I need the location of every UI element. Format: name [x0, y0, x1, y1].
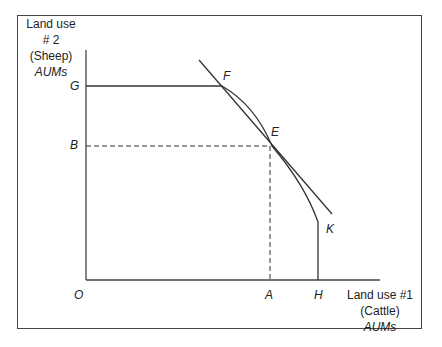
point-label-a: A — [265, 287, 273, 303]
point-label-e: E — [271, 124, 279, 140]
point-label-k: K — [326, 221, 334, 237]
y-axis-label-line1: Land use — [20, 16, 82, 32]
point-label-origin: O — [74, 287, 83, 303]
y-axis-label-line2: # 2 — [20, 32, 82, 48]
x-axis-label: Land use #1 (Cattle) AUMs — [338, 287, 422, 335]
x-axis-label-line1: Land use #1 — [338, 287, 422, 303]
point-label-h: H — [314, 287, 323, 303]
y-axis-label-line3: (Sheep) — [20, 48, 82, 64]
point-label-g: G — [70, 78, 79, 94]
frontier-curve — [86, 86, 318, 280]
point-label-f: F — [223, 68, 230, 84]
tangent-line — [199, 60, 332, 214]
x-axis-label-units: AUMs — [338, 319, 422, 335]
point-label-b: B — [70, 137, 78, 153]
x-axis-label-line2: (Cattle) — [338, 303, 422, 319]
y-axis-label: Land use # 2 (Sheep) AUMs — [20, 16, 82, 80]
